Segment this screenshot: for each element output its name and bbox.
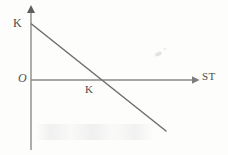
x-axis-strike-label: K bbox=[85, 84, 93, 95]
x-axis-title-label: ST bbox=[202, 71, 216, 82]
payoff-line bbox=[32, 24, 167, 131]
origin-label: O bbox=[18, 72, 27, 84]
y-axis-strike-label: K bbox=[13, 17, 22, 29]
chart-canvas bbox=[0, 0, 228, 155]
payoff-diagram-figure: K O K ST bbox=[0, 0, 228, 155]
